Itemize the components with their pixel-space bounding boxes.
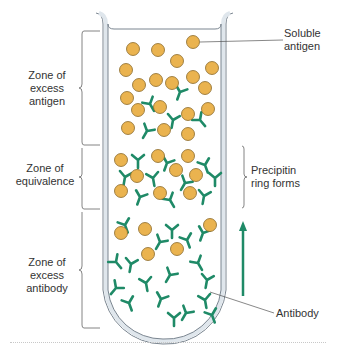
antigen-circle: [182, 108, 195, 121]
label-line: antigen: [284, 40, 321, 53]
antigen-circle: [133, 79, 146, 92]
antigen-circle: [202, 103, 215, 116]
bracket-excess-antigen: [79, 31, 100, 145]
bracket-precipitin-ring: [242, 146, 247, 208]
bracket-excess-antibody: [79, 212, 100, 328]
label-line: Zone of: [22, 256, 72, 269]
label-line: equivalence: [10, 175, 80, 188]
antigen-circle: [171, 55, 184, 68]
antibody-y-shape: [118, 171, 132, 186]
antigen-circle: [199, 82, 212, 95]
label-antibody: Antibody: [276, 307, 319, 320]
antibody-molecules: [106, 85, 221, 326]
label-line: excess: [22, 269, 72, 282]
antigen-circle: [127, 43, 140, 56]
label-line: Zone of: [22, 69, 72, 82]
antigen-circle: [121, 92, 134, 105]
antibody-y-shape: [197, 190, 211, 205]
up-arrow-icon: [239, 221, 247, 296]
label-line: ring forms: [251, 177, 300, 190]
antibody-y-shape: [151, 235, 168, 252]
antigen-circle: [152, 150, 165, 163]
label-precipitin-ring: Precipitin ring forms: [251, 164, 300, 190]
antigen-circle: [190, 169, 203, 182]
antigen-circle: [150, 74, 163, 87]
antibody-y-shape: [153, 292, 169, 308]
bracket-equivalence: [79, 148, 100, 209]
antibody-y-shape: [161, 268, 178, 285]
leader-soluble-antigen: [200, 40, 283, 42]
antibody-y-shape: [209, 173, 221, 186]
antigen-circle: [182, 150, 195, 163]
antigen-circle: [132, 104, 145, 117]
label-line: Zone of: [10, 162, 80, 175]
antibody-y-shape: [200, 274, 214, 289]
antigen-circle: [142, 248, 155, 261]
antibody-y-shape: [108, 254, 126, 272]
antigen-circle: [139, 223, 152, 236]
antibody-y-shape: [139, 277, 153, 292]
antigen-circle: [206, 62, 219, 75]
antibody-y-shape: [190, 256, 207, 273]
antigen-circle: [182, 128, 195, 141]
label-line: Soluble: [284, 27, 321, 40]
bottom-divider: [10, 342, 326, 343]
antigen-circle: [152, 44, 165, 57]
antigen-circle: [154, 187, 167, 200]
antibody-y-shape: [166, 225, 178, 238]
antibody-y-shape: [132, 155, 144, 168]
antigen-circle: [187, 36, 200, 49]
label-line: Precipitin: [251, 164, 300, 177]
label-zone-equivalence: Zone of equivalence: [10, 162, 80, 188]
label-zone-excess-antigen: Zone of excess antigen: [22, 69, 72, 108]
antigen-circle: [115, 227, 128, 240]
antigen-circle: [158, 124, 171, 137]
antigen-circle: [115, 154, 128, 167]
antigen-circle: [171, 243, 184, 256]
label-line: excess: [22, 82, 72, 95]
antibody-y-shape: [122, 296, 138, 312]
label-zone-excess-antibody: Zone of excess antibody: [22, 256, 72, 295]
antibody-y-shape: [168, 313, 180, 326]
antigen-circle: [204, 219, 217, 232]
liquid-surface: [108, 24, 221, 29]
antigen-circle: [115, 185, 128, 198]
antibody-y-shape: [132, 190, 148, 206]
antigen-circle: [122, 122, 135, 135]
antigen-circle: [131, 170, 144, 183]
antigen-circle: [170, 164, 183, 177]
antigen-circle: [154, 101, 167, 114]
antibody-y-shape: [146, 172, 160, 187]
antigen-circle: [187, 71, 200, 84]
label-line: antigen: [22, 95, 72, 108]
antibody-y-shape: [124, 258, 138, 273]
antigen-circle: [166, 77, 179, 90]
antigen-circle: [120, 64, 133, 77]
label-line: antibody: [22, 282, 72, 295]
antibody-y-shape: [198, 294, 212, 309]
label-soluble-antigen: Soluble antigen: [284, 27, 321, 53]
antibody-y-shape: [138, 124, 155, 141]
label-line: Antibody: [276, 307, 319, 320]
antigen-circle: [184, 187, 197, 200]
